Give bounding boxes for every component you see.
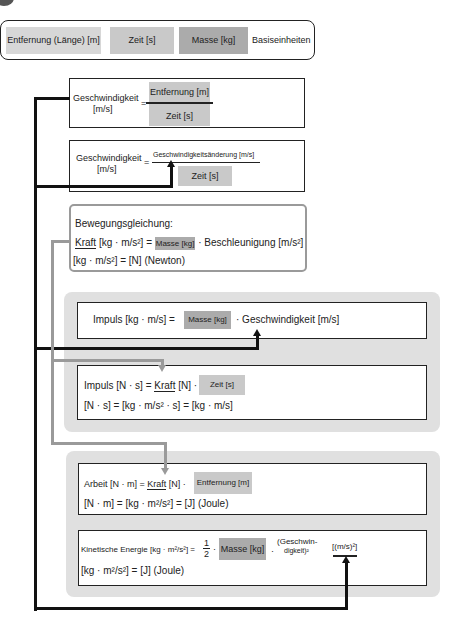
connector-black-to-velocity2 [34, 185, 172, 188]
multiply-dot: · [213, 543, 216, 555]
force-unit: [N] · [166, 479, 186, 489]
velocity-squared-line2: digkeit)² [284, 546, 309, 555]
mass-term: Masse [kg] [184, 311, 231, 329]
arrow-up-icon [253, 329, 261, 336]
fraction-bar [146, 102, 213, 104]
force-unit: [kg · m/s²] = [96, 237, 155, 248]
force-term: Kraft [75, 237, 96, 249]
kinetic-lhs: Kinetische Energie [kg · m²/s²] = [81, 544, 195, 556]
time-term: Zeit [s] [199, 375, 245, 395]
arrow-down-icon [161, 468, 169, 475]
mass-term: Masse [kg] [155, 237, 196, 250]
force-unit: [N] · [175, 380, 197, 391]
equals-sign: = [144, 156, 149, 168]
connector-black-to-velocity1 [34, 97, 70, 100]
newton-definition: [kg · m/s²] = [N] (Newton) [73, 255, 185, 267]
work-equation: Arbeit [N · m] = Kraft [N] · [84, 478, 186, 490]
arrow-up-icon [342, 556, 350, 563]
connector-black-up [170, 166, 173, 188]
velocity-term: · Geschwindigkeit [m/s] [236, 314, 339, 326]
force-term: Kraft [147, 479, 166, 490]
base-unit-time: Zeit [s] [110, 27, 174, 54]
motion-title: Bewegungsgleichung: [75, 218, 173, 230]
connector-gray-vertical [51, 240, 54, 444]
numerator-distance: Entfernung [m] [149, 86, 210, 98]
connector-black-up-impulse [256, 334, 259, 350]
impulse-unit-definition: [N · s] = [kg · m/s² · s] = [kg · m/s] [84, 400, 233, 412]
arrow-down-icon [158, 365, 166, 372]
connector-gray-down-work [164, 442, 167, 469]
corner-badge [0, 0, 14, 6]
denominator-time: Zeit [s] [149, 110, 210, 122]
velocity-squared-line1: (Geschwin- [277, 537, 317, 546]
kinetic-joule-definition: [kg · m²/s²] = [J] (Joule) [81, 565, 184, 577]
force-term: Kraft [154, 380, 175, 392]
motion-equation: Kraft [kg · m/s²] = Masse [kg] · Beschle… [75, 237, 303, 250]
impulse-force-equation: Impuls [N · s] = Kraft [N] · [84, 380, 197, 392]
connector-gray-from-force [51, 240, 71, 243]
connector-gray-to-impulse [51, 359, 164, 362]
work-lhs: Arbeit [N · m] = [84, 479, 147, 489]
half-denominator: 2 [204, 548, 209, 560]
connector-black-up-kinetic [345, 562, 348, 610]
connector-black-bottom [34, 607, 348, 610]
arrow-up-icon [167, 160, 175, 167]
multiply-dot: · [271, 545, 274, 557]
distance-term: Entfernung [m] [194, 472, 252, 494]
base-units-label: Basiseinheiten [252, 27, 311, 54]
impulse-lhs: Impuls [N · s] = [84, 380, 154, 391]
acceleration-term: · Beschleunigung [m/s²] [195, 237, 303, 248]
connector-black-vertical [34, 98, 37, 611]
velocity-unit: [m/s] [93, 103, 113, 115]
base-unit-mass: Masse [kg] [179, 27, 248, 54]
connector-gray-to-work [51, 442, 167, 445]
mass-term: Masse [kg] [219, 538, 266, 560]
velocity-squared-unit: [(m/s)²] [332, 541, 357, 553]
velocity-unit: [m/s] [97, 163, 117, 175]
denominator-time: Zeit [s] [178, 166, 232, 186]
joule-definition: [N · m] = [kg · m²/s²] = [J] (Joule) [84, 498, 228, 510]
impulse-lhs: Impuls [kg · m/s] = [93, 314, 175, 326]
connector-black-to-impulse [34, 347, 259, 350]
base-unit-distance: Entfernung (Länge) [m] [6, 27, 101, 54]
